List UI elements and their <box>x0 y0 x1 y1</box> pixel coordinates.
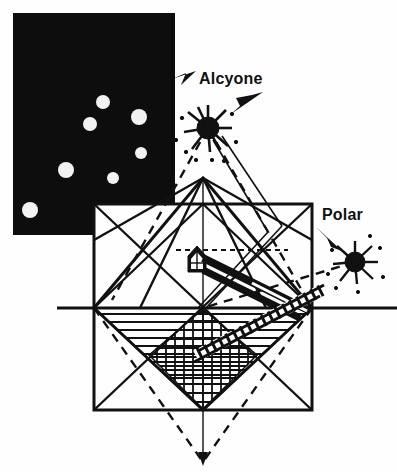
alcyone-label: Alcyone <box>199 70 263 88</box>
alcyone-starburst <box>174 105 237 163</box>
alcyone-arrow-left <box>172 71 196 85</box>
pleiades-star-field <box>13 13 175 235</box>
alcyone-arrow-right <box>231 92 263 114</box>
polar-label: Polar <box>322 206 363 224</box>
polar-starburst <box>326 234 384 293</box>
figure-canvas: Alcyone Polar <box>0 0 397 472</box>
